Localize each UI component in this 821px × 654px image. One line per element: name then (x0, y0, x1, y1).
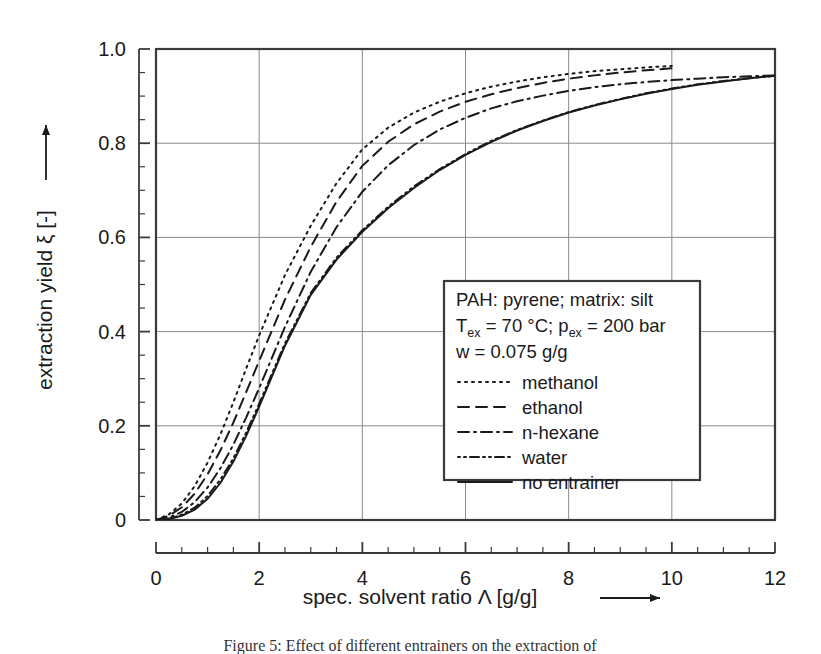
y-tick-label: 0.8 (98, 132, 126, 154)
y-tick-label: 1.0 (98, 38, 126, 60)
x-tick-label: 0 (150, 567, 161, 589)
legend-box: PAH: pyrene; matrix: siltTex = 70 °C; pe… (444, 281, 700, 493)
legend-label-water: water (521, 447, 567, 468)
x-tick-label: 10 (661, 567, 683, 589)
figure-caption-text: Figure 5: Effect of different entrainers… (223, 637, 597, 654)
figure-caption: Figure 5: Effect of different entrainers… (223, 637, 597, 654)
y-axis-title: extraction yield ξ [-] (33, 210, 56, 390)
extraction-yield-chart: 02468101200.20.40.60.81.0 spec. solvent … (0, 0, 821, 654)
legend-label-no-entrainer: no entrainer (522, 472, 621, 493)
legend-label-methanol: methanol (522, 372, 598, 393)
y-tick-label: 0 (115, 509, 126, 531)
x-axis-title: spec. solvent ratio Λ [g/g] (303, 585, 538, 608)
legend-info-line-1: PAH: pyrene; matrix: silt (456, 289, 653, 310)
legend-label-n-hexane: n-hexane (522, 422, 599, 443)
figure-root: 02468101200.20.40.60.81.0 spec. solvent … (0, 0, 821, 654)
x-tick-label: 12 (764, 567, 786, 589)
y-tick-label: 0.6 (98, 226, 126, 248)
legend-info-line-3: w = 0.075 g/g (455, 341, 568, 362)
x-tick-label: 2 (254, 567, 265, 589)
x-tick-label: 8 (563, 567, 574, 589)
legend-label-ethanol: ethanol (522, 397, 583, 418)
y-tick-label: 0.4 (98, 321, 126, 343)
y-tick-label: 0.2 (98, 415, 126, 437)
